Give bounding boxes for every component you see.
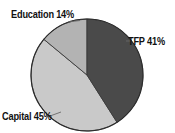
pie-label-education: Education 14%: [11, 9, 74, 20]
pie-chart-figure: Education 14% TFP 41% Capital 45%: [0, 0, 175, 133]
pie-label-tfp: TFP 41%: [128, 36, 165, 47]
pie-label-capital: Capital 45%: [2, 111, 52, 122]
